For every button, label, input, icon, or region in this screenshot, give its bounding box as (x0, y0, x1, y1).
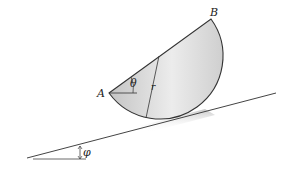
point-a-label: A (96, 87, 105, 100)
phi-label: φ (83, 146, 91, 159)
semicircular-body (109, 19, 223, 119)
point-b-label: B (209, 6, 218, 19)
theta-label: θ (130, 77, 137, 90)
radius-label: r (151, 82, 156, 92)
diagram-canvas: φ θ r A B (0, 0, 292, 177)
